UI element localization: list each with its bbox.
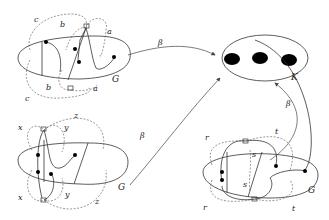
- label-b-bottom: b: [46, 83, 51, 92]
- label-a-top: a: [107, 27, 112, 36]
- label-y-bottom: y: [64, 190, 70, 199]
- label-s-bottom: s: [243, 180, 247, 189]
- label-b-top: b: [60, 20, 65, 29]
- label-c-bottom: c: [25, 94, 30, 103]
- label-t-bottom: t: [292, 204, 296, 213]
- label-t-top: t: [275, 127, 279, 136]
- diagram-canvas: K c b a b a c G: [0, 0, 329, 220]
- label-s-top: s: [252, 150, 256, 159]
- label-g-top-left: G: [112, 74, 119, 84]
- label-a-bottom: a: [93, 84, 98, 93]
- label-g-bottom-right: G: [308, 185, 315, 195]
- label-y-top: y: [63, 123, 69, 132]
- label-x-top: x: [18, 123, 23, 132]
- graph-bottom-right: r t s s r t G: [203, 40, 318, 213]
- map-arrows: β β β: [128, 38, 297, 185]
- label-beta-right: β: [285, 99, 291, 108]
- label-beta-top: β: [157, 38, 163, 47]
- label-z-bottom: z: [94, 197, 100, 206]
- label-r-top: r: [205, 133, 210, 142]
- target-k: K: [222, 35, 308, 82]
- graph-top-left: c b a b a c G: [18, 14, 130, 103]
- label-beta-middle: β: [139, 131, 145, 140]
- label-z-top: z: [73, 111, 79, 120]
- graph-bottom-left: x y z x y z G: [18, 111, 128, 209]
- label-g-bottom-left: G: [118, 182, 125, 192]
- label-c-top: c: [34, 15, 39, 24]
- label-x-bottom: x: [18, 193, 23, 202]
- label-r-bottom: r: [203, 203, 208, 212]
- label-k: K: [290, 72, 299, 82]
